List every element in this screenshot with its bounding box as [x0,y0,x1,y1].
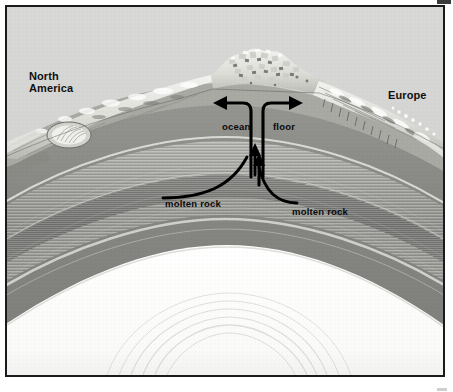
earth-cross-section-artwork [7,7,443,375]
label-molten-rock-left: molten rock [165,198,221,209]
print-grain-overlay [7,7,443,375]
label-ocean: ocean [222,121,250,132]
label-molten-rock-right: molten rock [292,206,348,217]
scan-artifact-bottom-right [437,388,447,391]
scan-artifact-top-right [437,0,451,4]
label-floor: floor [273,121,295,132]
figure-container: North America Europe ocean floor molten … [0,0,453,392]
label-europe: Europe [388,89,427,101]
illustration-frame: North America Europe ocean floor molten … [5,5,445,377]
label-north-america: North America [29,70,73,94]
